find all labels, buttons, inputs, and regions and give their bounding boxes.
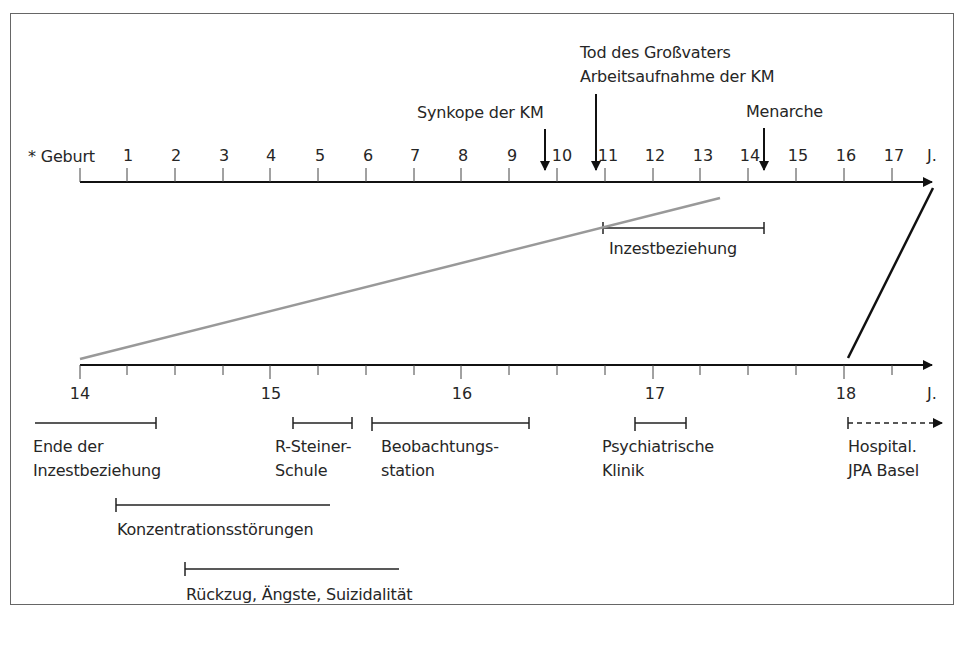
period-konzentration: Konzentrationsstörungen (117, 519, 313, 540)
zoom-connector-black (848, 188, 933, 358)
top-tick-6: 6 (363, 146, 373, 166)
period-beobachtung-l1: Beobachtungs- (381, 436, 499, 457)
top-tick-10: 10 (552, 146, 572, 166)
period-hospital-l1: Hospital. (848, 436, 917, 457)
bottom-axis (80, 365, 932, 379)
bottom-tick-16: 16 (452, 384, 472, 404)
top-axis (80, 168, 932, 182)
period-ende-inzest-l1: Ende der (33, 436, 103, 457)
zoom-connector-grey (80, 198, 720, 359)
top-tick-3: 3 (219, 146, 229, 166)
period-rueckzug: Rückzug, Ängste, Suizidalität (186, 584, 412, 605)
top-tick-15: 15 (788, 146, 808, 166)
birth-label: * Geburt (28, 146, 95, 167)
period-inzest-label: Inzestbeziehung (609, 238, 737, 259)
bottom-tick-17: 17 (645, 384, 665, 404)
period-beobachtung-l2: station (381, 460, 435, 481)
top-tick-13: 13 (693, 146, 713, 166)
period-klinik-l2: Klinik (602, 460, 644, 481)
bottom-axis-unit: J. (927, 384, 937, 404)
timeline-graphics (0, 0, 966, 647)
top-tick-16: 16 (836, 146, 856, 166)
top-tick-4: 4 (266, 146, 276, 166)
period-ende-inzest-l2: Inzestbeziehung (33, 460, 161, 481)
period-bar-inzest (603, 222, 764, 234)
bottom-tick-15: 15 (261, 384, 281, 404)
event-menarche: Menarche (746, 101, 823, 122)
period-steiner-l1: R-Steiner- (275, 436, 351, 457)
event-tod-grossvater: Tod des Großvaters (580, 42, 731, 63)
top-tick-14: 14 (740, 146, 760, 166)
period-klinik-l1: Psychiatrische (602, 436, 714, 457)
event-synkope: Synkope der KM (417, 102, 544, 123)
bottom-tick-18: 18 (836, 384, 856, 404)
top-tick-8: 8 (458, 146, 468, 166)
top-tick-1: 1 (123, 146, 133, 166)
top-tick-9: 9 (507, 146, 517, 166)
top-tick-5: 5 (315, 146, 325, 166)
top-axis-unit: J. (927, 146, 937, 166)
period-steiner-l2: Schule (275, 460, 327, 481)
period-hospital-l2: JPA Basel (848, 460, 919, 481)
top-tick-2: 2 (171, 146, 181, 166)
top-tick-7: 7 (410, 146, 420, 166)
event-arbeitsaufnahme: Arbeitsaufnahme der KM (580, 66, 774, 87)
bottom-tick-14: 14 (70, 384, 90, 404)
top-tick-11: 11 (598, 146, 618, 166)
top-tick-12: 12 (645, 146, 665, 166)
top-tick-17: 17 (884, 146, 904, 166)
